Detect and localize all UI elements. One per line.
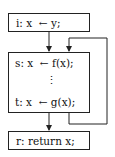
ellipsis-label: ⋮: [46, 74, 57, 86]
node-s-label: s: x ← f(x);: [15, 57, 74, 69]
node-i-label: i: x ← y;: [16, 17, 60, 29]
node-loop-body-box: s: x ← f(x); ⋮ t: x ← g(x);: [8, 52, 90, 113]
node-r-label: r: return x;: [16, 135, 75, 147]
node-i-box: i: x ← y;: [8, 13, 90, 32]
node-t-label: t: x ← g(x);: [15, 96, 75, 108]
node-r-box: r: return x;: [8, 131, 90, 150]
